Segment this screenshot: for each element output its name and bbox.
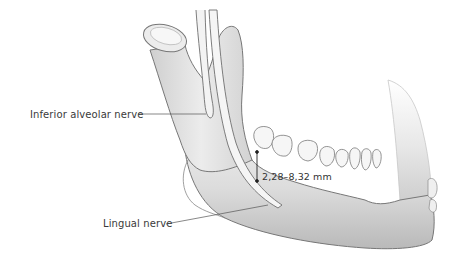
- teeth: [254, 126, 381, 170]
- inferior-alveolar-nerve-label: Inferior alveolar nerve: [30, 109, 144, 120]
- mandible-illustration: [0, 0, 461, 275]
- lingual-nerve-label: Lingual nerve: [103, 218, 172, 229]
- far-teeth: [428, 178, 437, 212]
- mandible-diagram: Inferior alveolar nerve Lingual nerve 2,…: [0, 0, 461, 275]
- far-ramus: [388, 80, 432, 210]
- measurement-label: 2,28–8,32 mm: [262, 171, 332, 182]
